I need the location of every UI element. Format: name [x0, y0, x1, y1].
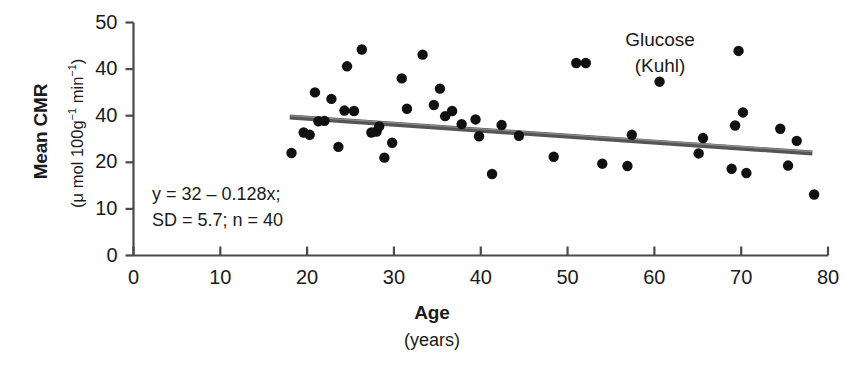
data-point [809, 189, 819, 199]
data-point [456, 119, 466, 129]
y-tick-label: 50 [76, 12, 118, 32]
data-point [548, 152, 558, 162]
data-point [775, 124, 785, 134]
data-point [402, 104, 412, 114]
x-tick-label: 30 [371, 267, 417, 287]
data-point [435, 83, 445, 93]
y-axis-title: Mean CMR [31, 47, 50, 217]
data-point [496, 120, 506, 130]
data-point [417, 49, 427, 59]
x-tick-label: 70 [718, 267, 764, 287]
data-point [474, 131, 484, 141]
x-tick-label: 0 [111, 267, 157, 287]
y-tick-label: 40 [76, 105, 118, 125]
regression-annotation: y = 32 – 0.128x; SD = 5.7; n = 40 [152, 181, 283, 233]
data-point [726, 164, 736, 174]
y-tick-label: 0 [76, 245, 118, 265]
data-point [622, 161, 632, 171]
x-axis-units: (years) [0, 330, 864, 351]
data-point [698, 133, 708, 143]
regression-equation: y = 32 – 0.128x; [152, 181, 283, 207]
series-source-text: (Kuhl) [545, 53, 775, 79]
data-point [397, 73, 407, 83]
data-point [792, 136, 802, 146]
series-title-text: Glucose [625, 29, 695, 50]
x-tick-label: 60 [631, 267, 677, 287]
x-tick-label: 10 [197, 267, 243, 287]
data-point [374, 121, 384, 131]
data-point [379, 152, 389, 162]
data-point [342, 61, 352, 71]
data-point [286, 148, 296, 158]
data-point [487, 169, 497, 179]
data-point [693, 148, 703, 158]
data-point [349, 106, 359, 116]
data-point [627, 130, 637, 140]
series-title-annotation: Glucose (Kuhl) [545, 27, 775, 78]
x-tick-label: 20 [284, 267, 330, 287]
x-tick-label: 40 [458, 267, 504, 287]
regression-statistics: SD = 5.7; n = 40 [152, 207, 283, 233]
y-units-mid: min [68, 77, 86, 108]
y-tick-label: 20 [76, 151, 118, 171]
data-point [730, 120, 740, 130]
data-point [447, 106, 457, 116]
x-axis-title: Age [0, 302, 864, 324]
data-point [783, 160, 793, 170]
data-point [357, 44, 367, 54]
data-point [319, 116, 329, 126]
data-point [741, 168, 751, 178]
data-point [429, 100, 439, 110]
data-point [305, 130, 315, 140]
data-point [339, 105, 349, 115]
data-point [514, 131, 524, 141]
scatter-plot-figure: Mean CMR (μ mol 100g−1 min−1) 0102040405… [0, 0, 864, 374]
data-point [310, 87, 320, 97]
data-point [326, 94, 336, 104]
x-tick-label: 50 [545, 267, 591, 287]
data-point [470, 114, 480, 124]
data-point [387, 138, 397, 148]
data-point [597, 158, 607, 168]
x-tick-label: 80 [805, 267, 851, 287]
y-tick-label: 10 [76, 198, 118, 218]
data-point [333, 142, 343, 152]
y-axis-title-group: Mean CMR (μ mol 100g−1 min−1) [0, 0, 100, 270]
y-tick-label: 40 [76, 58, 118, 78]
data-point [738, 107, 748, 117]
